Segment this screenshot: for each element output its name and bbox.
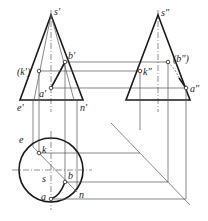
cone-projection-diagram: s' b' (k') a' e' n' s" (b") k" a" [0,0,208,221]
point-k-prime [37,69,41,73]
top-view: e k s b a n [12,131,186,210]
point-a-double-prime [184,86,188,90]
label-e-prime: e' [17,102,24,113]
label-n: n [79,189,84,200]
label-s: s [42,173,46,184]
miter-line-45deg [111,123,190,205]
label-k: k [42,144,47,155]
point-a [49,197,53,201]
side-view: s" (b") k" a" [126,7,200,199]
label-a: a [41,191,46,202]
point-k [37,151,41,155]
label-b-prime: b' [68,50,76,61]
point-b-prime [63,60,67,64]
top-curve-ab [51,182,65,199]
point-b [63,180,67,184]
label-n-prime: n' [80,102,88,113]
point-b-double-prime [166,60,170,64]
front-view: s' b' (k') a' e' n' [17,6,186,190]
label-k-prime: (k') [17,66,31,78]
label-e: e [19,134,24,145]
label-b: b [68,170,73,181]
label-b-double-prime: (b") [173,53,190,65]
front-curve-ab [51,62,65,88]
point-k-double-prime [138,69,142,73]
label-s-double-prime: s" [161,7,170,18]
point-a-prime [49,86,53,90]
label-k-double-prime: k" [143,66,152,77]
label-s-prime: s' [54,6,61,17]
label-a-double-prime: a" [190,83,200,94]
label-a-prime: a' [39,88,47,99]
